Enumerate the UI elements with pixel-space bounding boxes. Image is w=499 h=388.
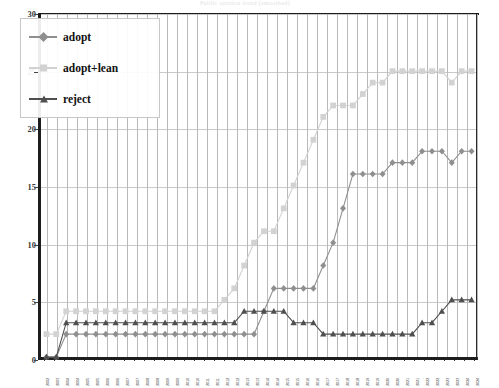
legend-line-swatch bbox=[29, 67, 57, 69]
x-axis-tick-label: 2002 bbox=[45, 378, 50, 386]
data-point-marker bbox=[380, 80, 386, 86]
x-axis-tick-label: 2020 bbox=[385, 378, 390, 386]
data-point-marker bbox=[300, 285, 306, 292]
x-axis-tick-label: 2022 bbox=[435, 378, 440, 386]
x-axis-tick-label: 2011 bbox=[205, 378, 210, 386]
x-axis-tick-label: 2013 bbox=[245, 378, 250, 386]
data-point-marker bbox=[261, 228, 267, 234]
data-point-marker bbox=[281, 205, 287, 211]
data-point-marker bbox=[469, 148, 475, 155]
x-axis-tick-label: 2013 bbox=[255, 378, 260, 386]
x-axis-tick-label: 2003 bbox=[55, 378, 60, 386]
data-point-marker bbox=[73, 331, 79, 338]
series-line bbox=[46, 300, 471, 357]
data-point-marker bbox=[172, 331, 178, 338]
data-point-marker bbox=[429, 148, 435, 155]
x-axis-tick-label: 2005 bbox=[85, 378, 90, 386]
x-axis-tick-label: 2005 bbox=[95, 378, 100, 386]
data-point-marker bbox=[271, 285, 277, 292]
y-axis-tick bbox=[34, 129, 38, 130]
data-point-marker bbox=[103, 308, 109, 314]
data-point-marker bbox=[142, 331, 148, 338]
data-point-marker bbox=[350, 171, 356, 178]
data-point-marker bbox=[399, 159, 405, 166]
chart-legend: adoptadopt+leanreject bbox=[20, 18, 160, 118]
data-point-marker bbox=[182, 308, 188, 314]
data-point-marker bbox=[340, 205, 346, 212]
data-point-marker bbox=[63, 308, 69, 314]
data-point-marker bbox=[231, 331, 237, 338]
data-point-marker bbox=[221, 331, 227, 338]
data-point-marker bbox=[132, 331, 138, 338]
data-point-marker bbox=[241, 331, 247, 338]
data-point-marker bbox=[429, 68, 435, 74]
data-point-marker bbox=[222, 297, 228, 303]
data-point-marker bbox=[241, 263, 247, 269]
x-axis-tick-label: 2015 bbox=[295, 378, 300, 386]
chart-title: Public opinion trend (smoothed) bbox=[150, 0, 340, 10]
x-axis-tick-label: 2008 bbox=[145, 378, 150, 386]
data-point-marker bbox=[350, 103, 356, 109]
x-axis-tick-label: 2024 bbox=[465, 378, 470, 386]
legend-label: adopt+lean bbox=[63, 62, 118, 74]
x-axis-tick-label: 2019 bbox=[365, 378, 370, 386]
x-axis-tick-label: 2010 bbox=[195, 378, 200, 386]
x-axis-tick-label: 2010 bbox=[185, 378, 190, 386]
data-point-marker bbox=[152, 331, 158, 338]
data-point-marker bbox=[83, 331, 89, 338]
x-axis-tick-label: 2017 bbox=[325, 378, 330, 386]
x-axis-tick-label: 2004 bbox=[75, 378, 80, 386]
data-point-marker bbox=[162, 308, 168, 314]
data-point-marker bbox=[439, 68, 445, 74]
legend-marker-square-icon bbox=[40, 65, 47, 72]
data-point-marker bbox=[113, 331, 119, 338]
x-axis-tick-label: 2004 bbox=[65, 378, 70, 386]
data-point-marker bbox=[192, 331, 198, 338]
gridline-vertical bbox=[477, 14, 478, 357]
data-point-marker bbox=[310, 285, 316, 292]
x-axis-tick-label: 2017 bbox=[335, 378, 340, 386]
legend-item-adopt-lean[interactable]: adopt+lean bbox=[29, 58, 118, 78]
data-point-marker bbox=[123, 308, 129, 314]
data-point-marker bbox=[53, 331, 59, 337]
data-point-marker bbox=[360, 91, 366, 97]
x-axis-tick-label: 2009 bbox=[175, 378, 180, 386]
y-axis-tick bbox=[34, 245, 38, 246]
legend-item-adopt[interactable]: adopt bbox=[29, 27, 91, 47]
x-axis-tick-label: 2014 bbox=[265, 378, 270, 386]
y-axis-tick bbox=[34, 187, 38, 188]
data-point-marker bbox=[419, 68, 425, 74]
x-axis-tick-label: 2012 bbox=[225, 378, 230, 386]
data-point-marker bbox=[202, 331, 208, 338]
x-axis-tick-label: 2011 bbox=[215, 378, 220, 386]
data-point-marker bbox=[281, 285, 287, 292]
data-point-marker bbox=[291, 183, 297, 189]
data-point-marker bbox=[390, 68, 396, 74]
data-point-marker bbox=[271, 228, 277, 234]
data-point-marker bbox=[370, 171, 376, 178]
legend-label: reject bbox=[63, 93, 91, 105]
legend-line-swatch bbox=[29, 36, 57, 38]
legend-item-reject[interactable]: reject bbox=[29, 89, 91, 109]
data-point-marker bbox=[291, 285, 297, 292]
data-point-marker bbox=[162, 331, 168, 338]
x-axis-tick-label: 2018 bbox=[355, 378, 360, 386]
series-line bbox=[46, 151, 471, 357]
data-point-marker bbox=[231, 286, 237, 292]
data-point-marker bbox=[330, 103, 336, 109]
data-point-marker bbox=[399, 68, 405, 74]
x-axis-tick-label: 2018 bbox=[345, 378, 350, 386]
x-axis-tick-label: 2023 bbox=[455, 378, 460, 386]
data-point-marker bbox=[142, 308, 148, 314]
x-axis-tick-label: 2008 bbox=[155, 378, 160, 386]
legend-label: adopt bbox=[63, 31, 91, 43]
data-point-marker bbox=[320, 114, 326, 120]
x-axis-tick-label: 2014 bbox=[275, 378, 280, 386]
x-axis-tick-label: 2016 bbox=[305, 378, 310, 386]
data-point-marker bbox=[469, 68, 475, 74]
data-point-marker bbox=[251, 240, 257, 246]
data-point-marker bbox=[113, 308, 119, 314]
chart-page: Public opinion trend (smoothed) 05101520… bbox=[0, 0, 499, 388]
x-axis-tick-label: 2022 bbox=[425, 378, 430, 386]
data-point-marker bbox=[182, 331, 188, 338]
